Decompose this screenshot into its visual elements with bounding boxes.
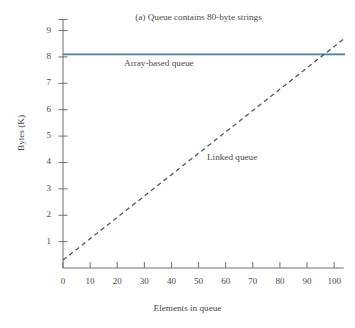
- y-tick-label: 7: [31, 77, 51, 87]
- y-tick-label: 3: [31, 183, 51, 193]
- x-tick-label: 60: [213, 276, 239, 286]
- y-tick-label: 8: [31, 51, 51, 61]
- x-tick-label: 20: [104, 276, 130, 286]
- y-tick-label: 9: [31, 25, 51, 35]
- data-series: [63, 38, 345, 260]
- y-tick-label: 4: [31, 156, 51, 166]
- y-tick-label: 1: [31, 236, 51, 246]
- x-tick-label: 10: [77, 276, 103, 286]
- y-axis-label: Bytes (K): [16, 103, 26, 163]
- margin-text-fragment-2: e: [0, 43, 8, 52]
- x-tick-label: 40: [158, 276, 184, 286]
- x-tick-label: 50: [186, 276, 212, 286]
- y-tick-label: 6: [31, 104, 51, 114]
- y-tick-label: 5: [31, 130, 51, 140]
- x-tick-label: 100: [321, 276, 347, 286]
- x-tick-label: 30: [131, 276, 157, 286]
- series-annotation-array-based-queue: Array-based queue: [124, 58, 194, 68]
- chart-figure: r e (a) Queue contains 80-byte strings B…: [0, 0, 355, 328]
- x-tick-label: 90: [294, 276, 320, 286]
- axis-ticks: [59, 19, 335, 268]
- chart-title: (a) Queue contains 80-byte strings: [0, 12, 355, 22]
- x-tick-label: 80: [267, 276, 293, 286]
- series-line-linked-queue: [63, 38, 345, 260]
- y-tick-label: 2: [31, 209, 51, 219]
- x-axis-label: Elements in queue: [0, 303, 355, 313]
- margin-text-fragment-1: r: [0, 22, 8, 31]
- series-annotation-linked-queue: Linked queue: [207, 152, 257, 162]
- axis-lines: [63, 19, 344, 268]
- x-tick-label: 70: [240, 276, 266, 286]
- x-tick-label: 0: [50, 276, 76, 286]
